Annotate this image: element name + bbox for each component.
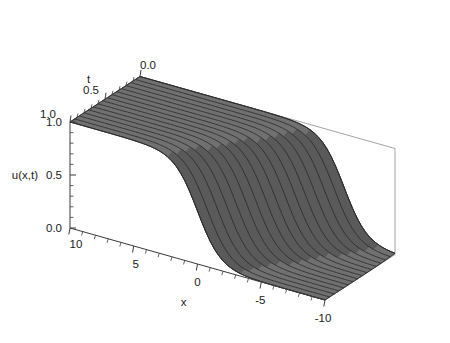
x-tick-label-1: 5 xyxy=(133,258,139,270)
x-tick-label-2: 0 xyxy=(194,276,200,288)
u-tick-label-2: 0.0 xyxy=(46,222,62,234)
surface-plot-figure: 0.0 0.5 1.0 t 1.0 0.5 0.0 u(x,t) 10 5 0 … xyxy=(0,0,450,343)
x-tick-label-3: -5 xyxy=(255,294,265,306)
x-axis-title: x xyxy=(181,296,187,308)
t-tick-label-1: 0.5 xyxy=(83,84,99,96)
t-tick-label-0: 0.0 xyxy=(140,59,156,71)
x-tick-label-0: 10 xyxy=(70,238,83,250)
plot-canvas: 0.0 0.5 1.0 t 1.0 0.5 0.0 u(x,t) 10 5 0 … xyxy=(0,0,450,343)
x-tick-label-4: -10 xyxy=(315,312,332,324)
u-tick-label-0: 1.0 xyxy=(46,116,62,128)
u-axis-title: u(x,t) xyxy=(12,169,38,181)
u-tick-label-1: 0.5 xyxy=(46,169,62,181)
